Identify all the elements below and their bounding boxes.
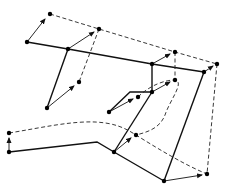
displaced-node-dot [173, 78, 177, 82]
node-dot [107, 110, 111, 114]
nodes [7, 12, 219, 183]
arrow-icon [114, 138, 131, 152]
arrow-icon [164, 175, 202, 181]
bottom-beam [9, 142, 164, 181]
top-beam [27, 42, 204, 72]
node-dot [202, 70, 206, 74]
displaced-node-dot [215, 62, 219, 66]
arrow-icon [68, 32, 94, 49]
node-dot [66, 47, 70, 51]
displaced-node-dot [7, 131, 11, 135]
original-structure [9, 42, 204, 181]
displaced-node-dot [77, 80, 81, 84]
displaced-right-column [207, 64, 217, 174]
displaced-top-beam [50, 14, 217, 64]
node-dot [112, 150, 116, 154]
node-dot [7, 150, 11, 154]
right-column [164, 72, 204, 181]
node-dot [45, 106, 49, 110]
node-dot [25, 40, 29, 44]
displaced-node-dot [134, 133, 138, 137]
arrow-icon [152, 82, 170, 92]
displaced-node-dot [205, 172, 209, 176]
displaced-node-dot [48, 12, 52, 16]
displacement-arrows [9, 19, 213, 181]
displaced-left-column [79, 29, 99, 82]
arrow-icon [27, 19, 45, 42]
displaced-node-dot [97, 27, 101, 31]
deformation-diagram [0, 0, 227, 192]
node-dot [150, 90, 154, 94]
arrow-icon [152, 54, 170, 64]
displaced-node-dot [136, 95, 140, 99]
node-dot [162, 179, 166, 183]
displaced-structure [9, 14, 217, 174]
node-dot [150, 62, 154, 66]
displaced-node-dot [173, 50, 177, 54]
